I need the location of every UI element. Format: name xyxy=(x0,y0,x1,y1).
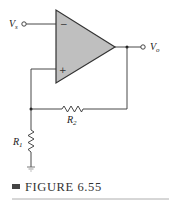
ground-icon xyxy=(27,167,35,171)
svg-text:R2: R2 xyxy=(66,114,77,127)
figure-caption: FIGURE 6.55 xyxy=(25,180,102,194)
inverting-sign: − xyxy=(60,19,68,29)
output-terminal: Vo xyxy=(115,41,160,54)
svg-text:R1: R1 xyxy=(12,136,23,149)
svg-text:Vs: Vs xyxy=(9,18,18,31)
circuit-diagram: − + Vs Vo R2 R1 FIGURE 6.55 xyxy=(0,0,169,201)
noninverting-wire xyxy=(31,69,56,109)
svg-text:Vo: Vo xyxy=(150,41,160,54)
caption-bullet-icon xyxy=(12,184,20,189)
resistor-r1: R1 xyxy=(12,109,34,167)
input-terminal: Vs xyxy=(9,18,56,31)
resistor-r2: R2 xyxy=(31,106,127,127)
noninverting-sign: + xyxy=(59,65,67,75)
